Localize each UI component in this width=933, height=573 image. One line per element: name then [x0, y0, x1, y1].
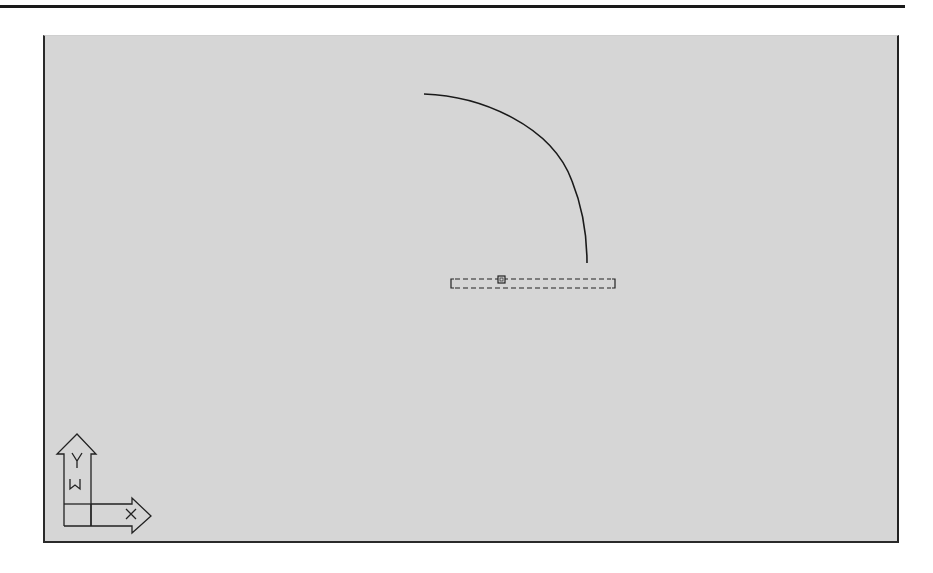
- ucs-icon: [57, 434, 151, 533]
- top-rule: [0, 5, 905, 8]
- grip-square[interactable]: [498, 276, 505, 283]
- selected-text-entity[interactable]: [451, 276, 615, 288]
- drawing-canvas[interactable]: [45, 36, 901, 544]
- drawing-viewport[interactable]: [43, 35, 899, 543]
- arc-entity[interactable]: [424, 94, 587, 263]
